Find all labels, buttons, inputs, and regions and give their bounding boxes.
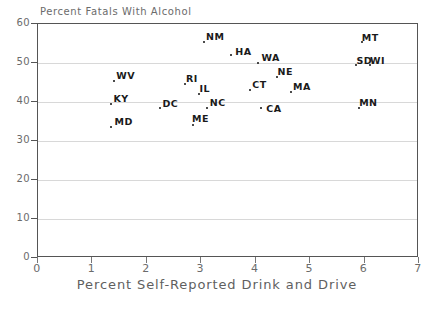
y-tick-label-50: 50 (4, 56, 30, 67)
data-point-ct (249, 89, 251, 91)
y-tick-label-60: 60 (4, 17, 30, 28)
data-point-ca (260, 107, 262, 109)
data-point-ma (290, 91, 292, 93)
data-point-label-mn: MN (359, 97, 377, 108)
y-tick-20 (31, 179, 37, 180)
y-tick-label-0: 0 (4, 251, 30, 262)
x-tick-label-7: 7 (405, 262, 431, 275)
data-point-label-ca: CA (266, 103, 281, 114)
y-tick-label-20: 20 (4, 173, 30, 184)
y-tick-40 (31, 101, 37, 102)
x-axis-title: Percent Self-Reported Drink and Drive (0, 277, 434, 292)
y-tick-60 (31, 23, 37, 24)
y-tick-10 (31, 218, 37, 219)
data-point-wv (113, 80, 115, 82)
data-point-nm (203, 41, 205, 43)
y-tick-label-30: 30 (4, 134, 30, 145)
data-point-md (110, 126, 112, 128)
data-point-label-ma: MA (293, 81, 311, 92)
data-point-label-ct: CT (252, 79, 266, 90)
gridline-y-10 (38, 219, 417, 220)
x-tick-label-6: 6 (351, 262, 377, 275)
data-point-ha (230, 54, 232, 56)
x-tick-label-4: 4 (242, 262, 268, 275)
x-tick-label-2: 2 (133, 262, 159, 275)
data-point-dc (159, 107, 161, 109)
data-point-label-ha: HA (235, 46, 251, 57)
data-point-label-nm: NM (206, 31, 224, 42)
data-point-label-me: ME (192, 113, 209, 124)
y-tick-label-40: 40 (4, 95, 30, 106)
gridline-y-20 (38, 180, 417, 181)
y-tick-label-10: 10 (4, 212, 30, 223)
y-tick-30 (31, 140, 37, 141)
data-point-label-ky: KY (113, 93, 128, 104)
data-point-label-il: IL (200, 83, 211, 94)
y-tick-50 (31, 62, 37, 63)
data-point-label-wa: WA (261, 52, 279, 63)
data-point-label-nc: NC (210, 97, 226, 108)
scatter-plot-figure: Percent Fatals With Alcohol MDKYWVDCRIME… (0, 0, 434, 309)
data-point-label-ne: NE (277, 66, 292, 77)
data-point-nc (206, 107, 208, 109)
data-point-label-dc: DC (162, 98, 178, 109)
data-point-label-wi: WI (370, 55, 385, 66)
data-point-label-wv: WV (116, 70, 135, 81)
data-point-ky (110, 103, 112, 105)
x-tick-label-1: 1 (78, 262, 104, 275)
gridline-y-30 (38, 141, 417, 142)
data-point-label-ri: RI (186, 73, 198, 84)
data-point-me (192, 124, 194, 126)
x-tick-label-0: 0 (24, 262, 50, 275)
data-point-label-md: MD (114, 116, 132, 127)
x-tick-label-3: 3 (187, 262, 213, 275)
chart-title: Percent Fatals With Alcohol (40, 6, 192, 17)
data-point-label-mt: MT (362, 32, 379, 43)
x-tick-label-5: 5 (296, 262, 322, 275)
plot-area: MDKYWVDCRIMEILNMNCHACTWACANEMASDWIMTMN (37, 23, 418, 257)
